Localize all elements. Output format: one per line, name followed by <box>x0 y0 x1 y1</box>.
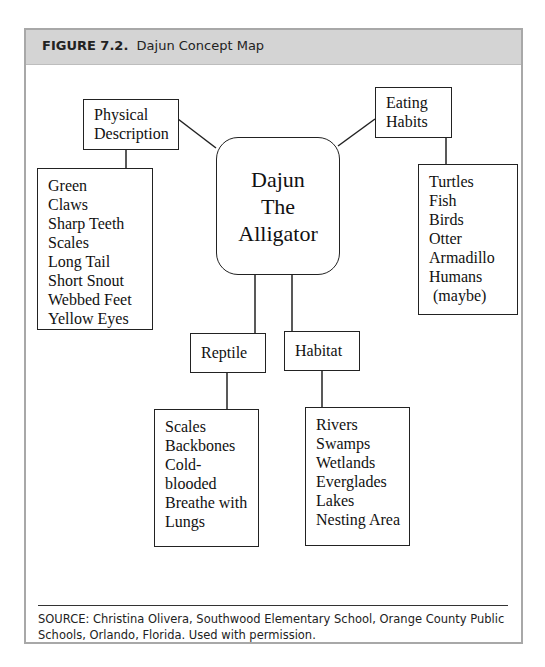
list-item: Green <box>48 176 152 195</box>
node-title-line: Habitat <box>295 341 359 360</box>
list-item: Yellow Eyes <box>48 309 152 328</box>
node-title-line: Physical <box>94 105 178 124</box>
list-item: Backbones <box>165 436 258 455</box>
list-item: Everglades <box>316 472 409 491</box>
source-note: SOURCE: Christina Olivera, Southwood Ele… <box>38 611 518 643</box>
list-item: (maybe) <box>429 286 517 305</box>
list-item: blooded <box>165 474 258 493</box>
list-item: Breathe with <box>165 493 258 512</box>
node-eating-habits: Eating Habits <box>375 87 452 138</box>
figure-frame: FIGURE 7.2. Dajun Concept Map Physical D… <box>24 28 523 644</box>
list-item: Turtles <box>429 172 517 191</box>
list-item: Fish <box>429 191 517 210</box>
list-item: Humans <box>429 267 517 286</box>
node-center-dajun: Dajun The Alligator <box>216 137 340 275</box>
list-item: Scales <box>165 417 258 436</box>
center-line: Dajun <box>217 166 339 193</box>
list-item: Birds <box>429 210 517 229</box>
list-item: Webbed Feet <box>48 290 152 309</box>
list-physical-description: Green Claws Sharp Teeth Scales Long Tail… <box>37 168 153 330</box>
list-reptile: Scales Backbones Cold- blooded Breathe w… <box>154 409 259 547</box>
list-item: Sharp Teeth <box>48 214 152 233</box>
list-item: Scales <box>48 233 152 252</box>
list-item: Nesting Area <box>316 510 409 529</box>
node-title-line: Habits <box>386 112 451 131</box>
node-title-line: Eating <box>386 93 451 112</box>
center-line: The <box>217 193 339 220</box>
list-item: Armadillo <box>429 248 517 267</box>
list-item: Long Tail <box>48 252 152 271</box>
node-title-line: Reptile <box>201 343 265 362</box>
list-item: Claws <box>48 195 152 214</box>
node-reptile: Reptile <box>190 333 266 373</box>
node-habitat: Habitat <box>284 331 360 371</box>
connector-eating <box>338 119 375 146</box>
center-line: Alligator <box>217 220 339 247</box>
list-eating-habits: Turtles Fish Birds Otter Armadillo Human… <box>418 164 518 315</box>
list-habitat: Rivers Swamps Wetlands Everglades Lakes … <box>305 407 410 546</box>
list-item: Lakes <box>316 491 409 510</box>
list-item: Short Snout <box>48 271 152 290</box>
connector-physical <box>178 119 216 148</box>
list-item: Swamps <box>316 434 409 453</box>
list-item: Cold- <box>165 455 258 474</box>
node-physical-description: Physical Description <box>83 99 179 150</box>
source-divider <box>38 605 508 606</box>
list-item: Wetlands <box>316 453 409 472</box>
list-item: Lungs <box>165 512 258 531</box>
node-title-line: Description <box>94 124 178 143</box>
list-item: Otter <box>429 229 517 248</box>
list-item: Rivers <box>316 415 409 434</box>
